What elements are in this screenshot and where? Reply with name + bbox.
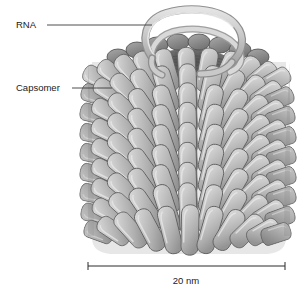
- diagram-canvas: RNA Capsomer 20 nm: [0, 0, 308, 294]
- capsomer-label-text: Capsomer: [16, 82, 60, 93]
- label-rna: RNA: [16, 19, 152, 30]
- scale-bar-label: 20 nm: [173, 275, 199, 286]
- scale-bar: 20 nm: [88, 262, 285, 286]
- rna-label-text: RNA: [16, 19, 37, 30]
- virus-diagram-figure: RNA Capsomer 20 nm: [0, 0, 308, 294]
- virus-capsid: [78, 34, 298, 256]
